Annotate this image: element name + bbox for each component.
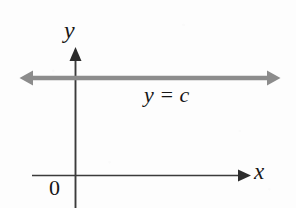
y-axis [70, 47, 82, 208]
y-axis-label: y [64, 18, 75, 42]
x-axis-arrowhead-icon [238, 170, 251, 182]
x-axis [32, 170, 251, 182]
y-axis-arrowhead-icon [70, 47, 82, 61]
constant-line-left-arrowhead-icon [20, 71, 34, 86]
constant-function-figure: y x 0 y = c [0, 0, 296, 208]
constant-line-right-arrowhead-icon [267, 71, 281, 86]
equation-label: y = c [144, 84, 189, 106]
x-axis-label: x [254, 160, 264, 183]
origin-label: 0 [49, 177, 60, 199]
